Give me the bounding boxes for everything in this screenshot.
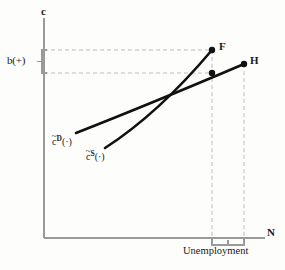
point-h-label: H <box>250 55 259 66</box>
point-f-dot <box>209 47 215 53</box>
point-f-label: F <box>219 41 226 52</box>
demand-curve-path <box>76 64 244 133</box>
demand-curve-label-suffix: (·) <box>62 136 72 147</box>
diagram-canvas <box>0 0 285 270</box>
supply-curve-label: ~ c S(·) <box>86 152 105 162</box>
demand-curve-label-base-wrap: ~ c <box>52 137 56 147</box>
supply-curve-label-suffix: (·) <box>95 151 105 162</box>
labor-market-diagram: c N F H b(+) Unemployment ~ c D(·) ~ c S… <box>0 0 285 270</box>
unemployment-label: Unemployment <box>183 246 248 257</box>
supply-curve-label-tilde: ~ <box>86 147 91 156</box>
demand-curve-label-tilde: ~ <box>52 132 57 141</box>
demand-curve-label: ~ c D(·) <box>52 137 72 147</box>
axes-group <box>44 18 265 238</box>
guide-lines-group <box>44 50 244 244</box>
point-h-dot <box>241 61 247 67</box>
supply-curve-label-base-wrap: ~ c <box>86 152 90 162</box>
b-bracket-label: b(+) <box>7 55 25 66</box>
point-intersection-dot <box>209 70 215 76</box>
x-axis-label: N <box>267 227 275 238</box>
b-bracket <box>37 50 47 73</box>
y-axis-label: c <box>41 6 46 17</box>
unemployment-bracket <box>212 238 244 245</box>
curves-group <box>76 50 244 148</box>
